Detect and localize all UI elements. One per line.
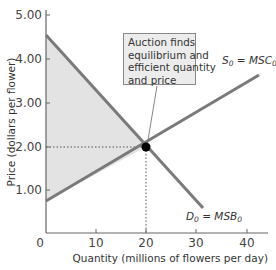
demand-curve-label: D0 = MSB0: [186, 210, 242, 224]
x-tick-label: 40: [239, 236, 254, 250]
auction-callout-box: Auction finds equilibrium and efficient …: [123, 33, 196, 85]
callout-line: efficient quantity: [128, 61, 195, 74]
y-tick-label: 2.00: [15, 140, 42, 154]
x-tick-label: 20: [138, 236, 153, 250]
y-tick-label: 4.00: [15, 52, 42, 66]
callout-line: Auction finds: [128, 36, 195, 49]
y-tick-label: 1.00: [15, 183, 42, 197]
y-axis-title: Price (dollars per flower): [5, 58, 17, 187]
x-tick-label: 10: [88, 236, 103, 250]
equilibrium-point: [142, 143, 151, 152]
x-tick-label: 0: [36, 236, 44, 250]
callout-line: and price: [128, 74, 195, 87]
y-tick-label: 3.00: [15, 96, 42, 110]
x-axis-title: Quantity (millions of flowers per day): [73, 252, 268, 264]
supply-curve-label: S0 = MSC0: [222, 54, 276, 68]
callout-line: equilibrium and: [128, 49, 195, 62]
y-tick-label: 5.00: [15, 8, 42, 22]
x-tick-label: 30: [188, 236, 203, 250]
